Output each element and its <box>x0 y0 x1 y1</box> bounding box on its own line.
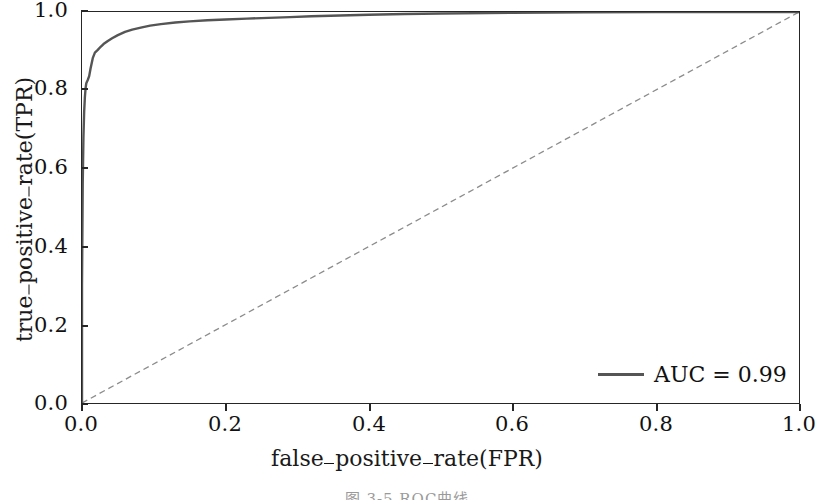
x-axis-tick-label: 0.8 <box>616 412 696 436</box>
y-axis-tick-label: 0.8 <box>34 76 68 100</box>
x-axis-tick-label: 0.2 <box>185 412 265 436</box>
x-tick-0.0 <box>81 404 83 411</box>
y-tick-1.0 <box>81 10 88 12</box>
legend-line-swatch <box>598 373 644 375</box>
legend: AUC = 0.99 <box>598 362 787 387</box>
x-tick-1.0 <box>799 404 801 411</box>
figure-caption: 图 3-5 ROC曲线 <box>0 487 814 500</box>
y-axis-title-part: true <box>12 296 37 343</box>
x-axis-title-part: rate(FPR) <box>434 446 543 471</box>
y-axis-tick-label: 0.4 <box>34 234 68 258</box>
x-tick-0.8 <box>656 404 658 411</box>
x-axis-tick-label: 1.0 <box>759 412 820 436</box>
y-axis-tick-label: 1.0 <box>34 0 68 22</box>
x-axis-tick-label: 0.6 <box>472 412 552 436</box>
y-axis-tick-label: 0.2 <box>34 313 68 337</box>
x-axis-title: falsepositiverate(FPR) <box>0 446 814 471</box>
x-axis-tick-label: 0.4 <box>329 412 409 436</box>
y-axis-title-part: rate(TPR) <box>12 77 37 186</box>
y-tick-0.2 <box>81 325 88 327</box>
legend-label-auc: AUC = 0.99 <box>654 362 787 387</box>
chance-diagonal-line <box>82 12 799 403</box>
x-tick-0.2 <box>225 404 227 411</box>
y-axis-tick-label: 0.6 <box>34 155 68 179</box>
plot-area <box>81 11 800 404</box>
y-axis-title-part: positive <box>12 197 37 284</box>
x-tick-0.4 <box>369 404 371 411</box>
y-tick-0.4 <box>81 246 88 248</box>
x-axis-title-part: false <box>271 446 324 471</box>
x-tick-0.6 <box>512 404 514 411</box>
x-axis-title-part: positive <box>335 446 422 471</box>
x-axis-tick-label: 0.0 <box>41 412 121 436</box>
y-tick-0.6 <box>81 167 88 169</box>
y-tick-0.8 <box>81 88 88 90</box>
y-axis-title: truepositiverate(TPR) <box>12 45 37 375</box>
plot-canvas <box>82 12 799 403</box>
